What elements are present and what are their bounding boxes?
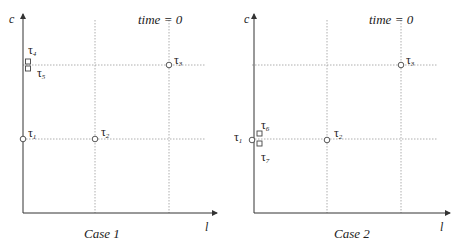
case2-tau3-label: τ3 — [406, 54, 414, 70]
case2-x-axis-label: l — [440, 221, 443, 233]
case2-tau6-label: τ6 — [261, 119, 269, 135]
case1-tau1-marker — [20, 136, 26, 142]
case1-tau5-label: τ5 — [37, 67, 45, 83]
case1-tau2-marker — [92, 136, 98, 142]
case1-y-axis-label: c — [9, 13, 14, 25]
case1-tau1-label: τ1 — [28, 127, 36, 143]
diagram-canvas — [0, 0, 463, 248]
case1-plot — [20, 14, 217, 213]
case2-time-label: time = 0 — [369, 14, 413, 26]
case1-tau2-label: τ2 — [101, 126, 109, 142]
case2-tau1-marker — [249, 137, 255, 143]
case2-tau2-marker — [324, 137, 330, 143]
case2-grid — [252, 20, 437, 213]
case1-x-axis-label: l — [205, 221, 208, 233]
case1-time-label: time = 0 — [138, 14, 182, 26]
case2-plot — [249, 14, 450, 213]
case1-tau4-label: τ4 — [28, 44, 36, 60]
case1-tau3-marker — [166, 62, 172, 68]
case2-caption: Case 2 — [334, 228, 370, 240]
case1-grid — [23, 20, 205, 213]
case2-tau7-label: τ7 — [261, 151, 269, 167]
case1-caption: Case 1 — [84, 228, 120, 240]
case2-tau1-label: τ1 — [234, 131, 242, 147]
case2-tau2-label: τ2 — [334, 127, 342, 143]
case1-tau3-label: τ3 — [174, 54, 182, 70]
case2-y-axis-label: c — [244, 13, 249, 25]
case1-tau5-marker — [26, 66, 31, 71]
case2-tau3-marker — [398, 62, 404, 68]
case2-tau7-marker — [257, 141, 262, 146]
